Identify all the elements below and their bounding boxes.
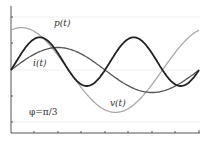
v-series-label: v(t): [110, 98, 126, 108]
p-series-label: p(t): [54, 18, 71, 28]
x-axis: [11, 130, 200, 133]
power-waveform-chart: p(t) i(t) v(t) φ=π/3: [0, 0, 221, 144]
phase-annotation: φ=π/3: [29, 107, 58, 117]
i-series-label: i(t): [33, 58, 47, 68]
